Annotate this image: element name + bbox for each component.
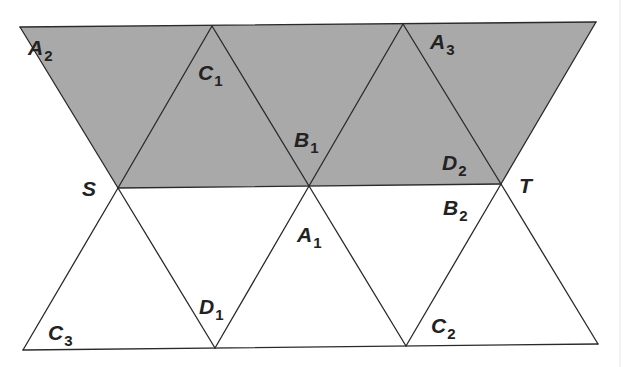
edge-M-to-bottom2 xyxy=(309,186,406,346)
edge-M-to-bottom1 xyxy=(215,186,309,348)
vertex-label-T: T xyxy=(519,174,534,197)
edge-T-to-bottomright xyxy=(501,184,598,344)
vertex-label-D1: D1 xyxy=(199,295,224,323)
vertex-label-A1: A1 xyxy=(296,223,322,251)
edge-S-to-bottom1 xyxy=(118,188,215,348)
vertex-label-C2: C2 xyxy=(431,314,456,342)
bottom-edge xyxy=(23,344,598,350)
vertex-label-S: S xyxy=(82,177,96,200)
tetrahedron-net-diagram: A2C1B1A3D2STB2A1D1C3C2 xyxy=(0,0,625,367)
edge-S-to-bottomleft xyxy=(23,188,118,350)
vertex-label-C3: C3 xyxy=(48,321,73,349)
vertex-label-B2: B2 xyxy=(443,196,468,224)
shaded-upper-region xyxy=(20,22,596,188)
